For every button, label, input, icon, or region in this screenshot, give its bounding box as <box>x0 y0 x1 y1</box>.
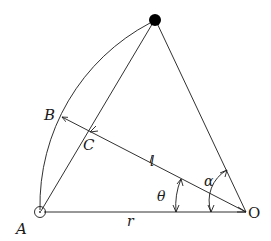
point-A-center-dot <box>39 211 41 213</box>
top-point-marker <box>149 14 161 26</box>
chord-A-top <box>41 21 154 211</box>
label-C: C <box>83 136 95 154</box>
label-theta: θ <box>157 188 166 204</box>
label-alpha: α <box>204 173 214 189</box>
geometry-diagram: A B C O l r θ α <box>0 0 271 241</box>
angle-alpha-arrow-bottom <box>208 205 214 212</box>
label-l: l <box>150 153 154 169</box>
arc-A-to-top <box>40 23 150 210</box>
label-A: A <box>14 220 27 238</box>
label-B: B <box>43 106 55 124</box>
label-O: O <box>248 204 260 222</box>
segment-O-top <box>156 21 246 212</box>
label-r: r <box>127 213 135 229</box>
